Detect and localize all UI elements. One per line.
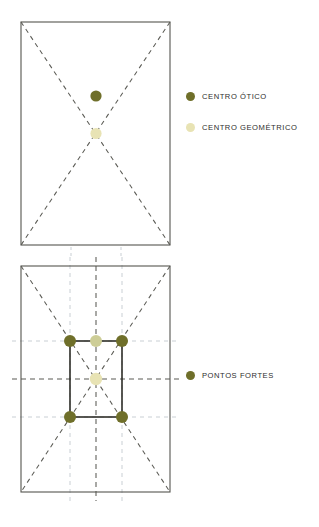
legend-label-centro-geometrico: CENTRO GEOMÉTRICO [202,123,297,132]
legend-item-centro-geometrico: CENTRO GEOMÉTRICO [186,123,297,132]
ponto-forte-bottom-right [116,411,128,423]
centro-otico-point [90,90,101,101]
legend-dot-pontos-fortes [186,371,195,380]
ponto-forte-bottom-left [64,411,76,423]
legend-dot-centro-otico [186,92,195,101]
diagram-canvas: CENTRO ÓTICO CENTRO GEOMÉTRICO PONTOS FO… [0,0,319,527]
centro-geometrico-point [90,128,101,139]
composition-diagram [0,0,319,527]
legend-dot-centro-geometrico [186,123,195,132]
legend-label-pontos-fortes: PONTOS FORTES [202,371,274,380]
ponto-forte-top-left [64,335,76,347]
ponto-forte-top-center [90,335,102,347]
optical-center-figure [21,22,170,259]
ponto-forte-top-right [116,335,128,347]
legend-item-centro-otico: CENTRO ÓTICO [186,92,267,101]
centro-geometrico-point [90,373,102,385]
strong-points-figure [12,257,179,501]
legend-label-centro-otico: CENTRO ÓTICO [202,92,267,101]
legend-item-pontos-fortes: PONTOS FORTES [186,371,274,380]
